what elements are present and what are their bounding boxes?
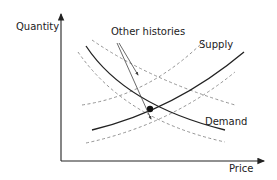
demand-label: Demand bbox=[205, 116, 247, 127]
other-histories-pointers bbox=[117, 43, 151, 119]
supply-demand-diagram: Quantity Price Other histories Supply De… bbox=[0, 0, 277, 180]
other-histories-label: Other histories bbox=[111, 26, 185, 37]
x-axis-label: Price bbox=[229, 163, 253, 174]
alt-supply-curve-1 bbox=[82, 40, 205, 105]
pointer-arrow-2 bbox=[117, 43, 151, 119]
y-axis-label: Quantity bbox=[16, 21, 59, 32]
supply-label: Supply bbox=[199, 39, 233, 50]
